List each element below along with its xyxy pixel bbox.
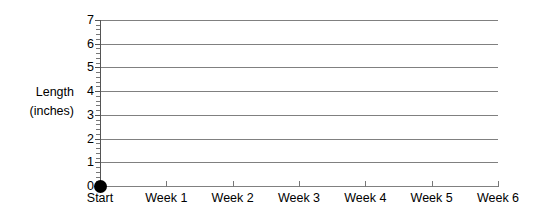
- y-major-tick-3: [95, 115, 101, 116]
- y-tick-label-7: 7: [72, 14, 94, 27]
- y-minor-tick: [96, 63, 100, 64]
- x-tick-mark-6: [498, 181, 499, 187]
- y-minor-tick: [96, 120, 100, 121]
- gridline-y-7: [100, 20, 498, 21]
- y-axis-title-line-2: (inches): [2, 103, 74, 120]
- gridline-y-5: [100, 67, 498, 68]
- y-minor-tick: [96, 129, 100, 130]
- x-tick-mark-2: [233, 181, 234, 187]
- y-minor-tick: [96, 82, 100, 83]
- gridline-y-6: [100, 44, 498, 45]
- y-minor-tick: [96, 58, 100, 59]
- y-major-tick-7: [95, 20, 101, 21]
- y-tick-label-5: 5: [72, 61, 94, 74]
- y-minor-tick: [96, 96, 100, 97]
- gridline-y-2: [100, 139, 498, 140]
- y-minor-tick: [96, 134, 100, 135]
- y-minor-tick: [96, 86, 100, 87]
- y-minor-tick: [96, 143, 100, 144]
- x-tick-mark-1: [166, 181, 167, 187]
- x-tick-label-6: Week 6: [458, 191, 538, 206]
- y-tick-label-2: 2: [72, 133, 94, 146]
- y-minor-tick: [96, 105, 100, 106]
- growth-length-chart: Length (inches) 01234567 StartWeek 1Week…: [0, 0, 542, 224]
- x-tick-mark-5: [432, 181, 433, 187]
- y-major-tick-2: [95, 139, 101, 140]
- gridline-y-1: [100, 162, 498, 163]
- y-minor-tick: [96, 110, 100, 111]
- y-minor-tick: [96, 77, 100, 78]
- plot-area: [100, 20, 498, 186]
- y-minor-tick: [96, 39, 100, 40]
- y-minor-tick: [96, 167, 100, 168]
- y-major-tick-4: [95, 91, 101, 92]
- y-minor-tick: [96, 34, 100, 35]
- y-tick-label-4: 4: [72, 85, 94, 98]
- x-tick-mark-3: [299, 181, 300, 187]
- y-minor-tick: [96, 72, 100, 73]
- y-axis-title-line-1: Length: [2, 84, 74, 101]
- y-minor-tick: [96, 124, 100, 125]
- y-minor-tick: [96, 101, 100, 102]
- y-axis-line: [100, 20, 101, 186]
- y-tick-label-3: 3: [72, 109, 94, 122]
- x-tick-mark-4: [365, 181, 366, 187]
- y-major-tick-6: [95, 44, 101, 45]
- y-major-tick-1: [95, 162, 101, 163]
- y-minor-tick: [96, 177, 100, 178]
- gridline-y-4: [100, 91, 498, 92]
- y-minor-tick: [96, 148, 100, 149]
- y-minor-tick: [96, 172, 100, 173]
- data-point-marker: [94, 180, 107, 193]
- y-minor-tick: [96, 53, 100, 54]
- gridline-y-3: [100, 115, 498, 116]
- y-tick-label-6: 6: [72, 38, 94, 51]
- y-minor-tick: [96, 29, 100, 30]
- y-major-tick-5: [95, 67, 101, 68]
- y-tick-label-1: 1: [72, 156, 94, 169]
- y-minor-tick: [96, 25, 100, 26]
- y-minor-tick: [96, 153, 100, 154]
- y-minor-tick: [96, 158, 100, 159]
- y-minor-tick: [96, 48, 100, 49]
